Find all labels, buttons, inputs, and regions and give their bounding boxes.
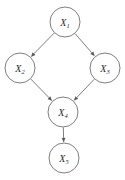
edge-x2-to-x4 [31,79,52,101]
node-layer: X1X2X3X4X5 [5,7,120,173]
node-x2[interactable]: X2 [5,53,35,83]
edge-line [34,33,54,54]
edge-x3-to-x4 [74,79,95,101]
arrowhead-icon [62,138,66,143]
node-x5[interactable]: X5 [49,143,79,173]
edge-line [31,79,49,98]
edge-line [75,34,92,53]
edge-line [77,79,94,97]
node-x1[interactable]: X1 [50,7,80,37]
edge-x1-to-x2 [31,33,54,57]
dag-figure: X1X2X3X4X5 [0,0,125,180]
edge-x1-to-x3 [75,34,95,57]
node-x4[interactable]: X4 [48,97,78,127]
node-x3[interactable]: X3 [90,53,120,83]
dag-canvas: X1X2X3X4X5 [0,0,125,180]
edge-x4-to-x5 [62,127,66,142]
